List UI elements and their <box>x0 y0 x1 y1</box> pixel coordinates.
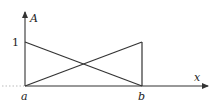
x-axis-label: x <box>194 71 201 84</box>
x-tick-label-a: a <box>21 90 28 103</box>
y-tick-label-1: 1 <box>12 36 19 49</box>
y-axis-label: A <box>29 12 38 25</box>
membership-diagram: A x 1 a b <box>0 0 219 103</box>
x-tick-label-b: b <box>138 90 145 103</box>
